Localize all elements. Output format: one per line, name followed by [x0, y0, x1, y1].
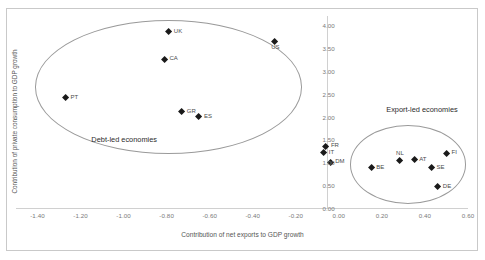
x-tick-label: -1.20 [73, 212, 88, 219]
data-point-label: BE [376, 164, 384, 170]
chart-figure: UKUSCAPTGRESFRITDMBENLATSEFIDE Debt-led … [0, 0, 485, 260]
group-annotation: Export-led economies [386, 105, 457, 114]
y-tick-label: 3.50 [311, 45, 335, 52]
x-tick-label: 0.60 [462, 212, 474, 219]
x-tick-label: -0.60 [202, 212, 217, 219]
data-point-label: FR [331, 142, 339, 148]
x-tick-label: 0.20 [376, 212, 388, 219]
x-tick-label: 0.00 [333, 212, 345, 219]
data-point-label: US [271, 44, 279, 50]
data-point-label: IT [329, 149, 334, 155]
x-tick-label: 0.40 [419, 212, 431, 219]
x-tick-label: -0.40 [245, 212, 260, 219]
data-point-label: FI [451, 149, 456, 155]
y-tick-label: 1.50 [311, 136, 335, 143]
group-annotation: Debt-led economies [91, 135, 157, 144]
data-point-label: DE [443, 183, 451, 189]
data-point-label: CA [170, 55, 178, 61]
x-axis-line [16, 208, 468, 209]
y-tick-label: 1.00 [311, 159, 335, 166]
x-tick-label: -0.80 [159, 212, 174, 219]
data-point-label: SE [436, 164, 444, 170]
y-tick-label: 0.50 [311, 182, 335, 189]
export-led-ellipse [350, 125, 466, 204]
y-axis-title: Contribution of private consumption to G… [11, 22, 18, 222]
x-tick-label: -1.40 [30, 212, 45, 219]
data-point-label: NL [396, 150, 404, 156]
debt-led-ellipse [35, 20, 302, 153]
x-axis-title: Contribution of net exports to GDP growt… [181, 231, 303, 238]
y-tick-label: 2.00 [311, 113, 335, 120]
data-point-label: ES [204, 113, 212, 119]
x-tick-label: -0.20 [288, 212, 303, 219]
data-point-label: GR [187, 108, 196, 114]
y-tick-label: 3.00 [311, 67, 335, 74]
y-tick-label: 4.00 [311, 22, 335, 29]
y-tick-label: 0.00 [311, 205, 335, 212]
data-point-label: DM [335, 158, 344, 164]
x-tick-label: -1.00 [116, 212, 131, 219]
data-point-label: UK [174, 28, 182, 34]
y-tick-label: 2.50 [311, 90, 335, 97]
data-point-label: AT [419, 156, 426, 162]
data-point-label: PT [71, 94, 79, 100]
